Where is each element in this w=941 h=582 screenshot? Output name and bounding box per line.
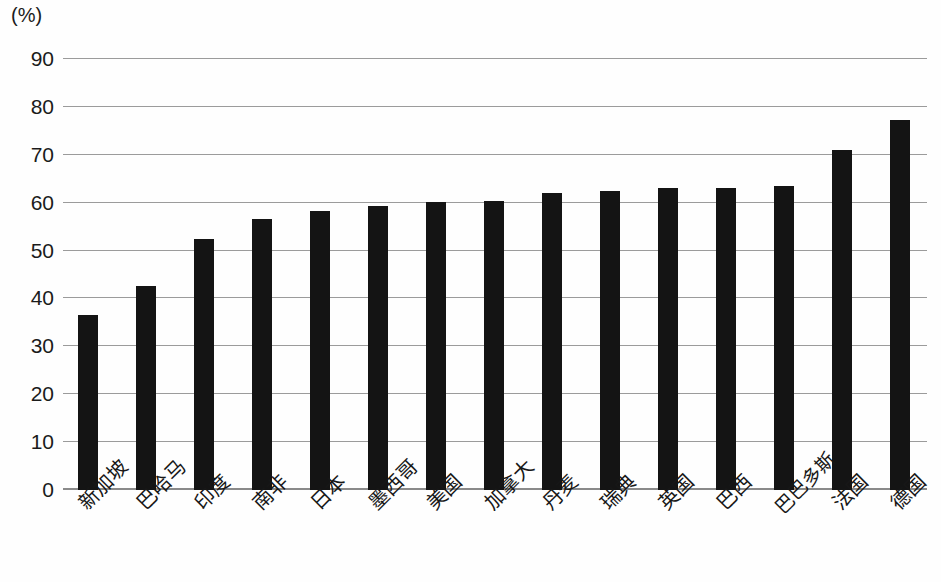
y-axis-tick-label: 60 (8, 192, 54, 213)
bar-chart: (%) 9080706050403020100 新加坡巴哈马印度南非日本墨西哥美… (0, 0, 941, 582)
gridline (63, 106, 927, 107)
bar (78, 315, 98, 490)
plot-area (63, 59, 927, 490)
bar (136, 286, 156, 490)
bar (658, 188, 678, 490)
bar (484, 201, 504, 490)
bar (832, 150, 852, 490)
y-axis-tick-label: 20 (8, 383, 54, 404)
y-axis-tick-label: 80 (8, 96, 54, 117)
bar (600, 191, 620, 490)
bar (426, 202, 446, 490)
y-axis-tick-label: 30 (8, 335, 54, 356)
bar (194, 239, 214, 490)
y-axis-tick-label: 90 (8, 48, 54, 69)
bar (716, 188, 736, 490)
gridline (63, 58, 927, 59)
y-axis-unit-label: (%) (11, 3, 42, 27)
y-axis-tick-label: 50 (8, 240, 54, 261)
bar (542, 193, 562, 490)
bar (368, 206, 388, 490)
bar (310, 211, 330, 490)
x-axis-category-labels: 新加坡巴哈马印度南非日本墨西哥美国加拿大丹麦瑞典英国巴西巴巴多斯法国德国 (0, 496, 941, 582)
y-axis-tick-label: 10 (8, 431, 54, 452)
gridline (63, 154, 927, 155)
bar (774, 186, 794, 490)
y-axis-tick-label: 70 (8, 144, 54, 165)
y-axis-tick-label: 40 (8, 287, 54, 308)
bar (252, 219, 272, 490)
bar (890, 120, 910, 490)
